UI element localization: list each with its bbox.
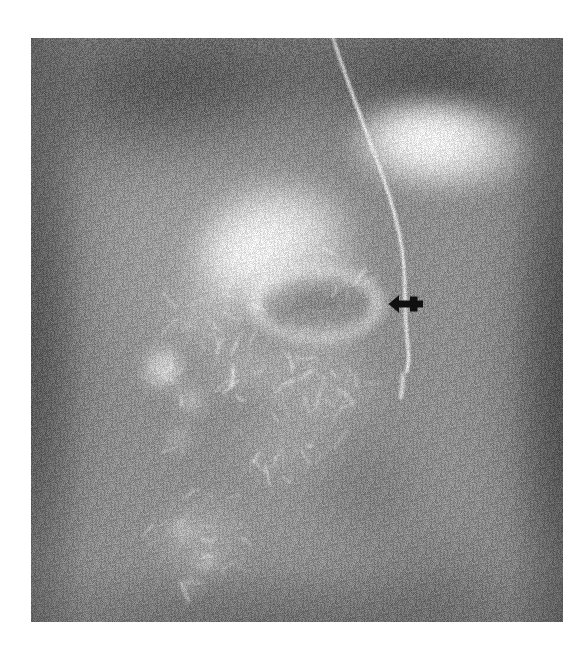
xray-canvas: [31, 38, 563, 622]
page-root: [0, 0, 587, 653]
radiograph-image: [31, 38, 563, 622]
caption-area: [0, 623, 587, 653]
